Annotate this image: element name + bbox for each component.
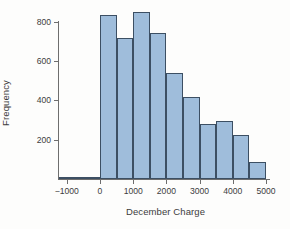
x-tick-mark [67, 180, 68, 184]
histogram-bar [133, 12, 150, 179]
histogram-bar [150, 33, 167, 179]
y-tick-mark [54, 100, 58, 101]
y-axis-line [58, 21, 59, 180]
y-tick-label: 600 [25, 56, 51, 66]
x-tick-mark [133, 180, 134, 184]
histogram-bar [183, 97, 200, 179]
histogram-bar [200, 124, 217, 179]
x-axis-line [58, 179, 270, 180]
y-tick-label: 800 [25, 17, 51, 27]
y-tick-mark [54, 22, 58, 23]
histogram-bar [100, 15, 117, 179]
histogram-bar [249, 162, 266, 179]
x-tick-mark [200, 180, 201, 184]
y-tick-mark [54, 140, 58, 141]
x-tick-mark [266, 180, 267, 184]
histogram-figure: Frequency 200400600800 −1000010002000300… [0, 0, 290, 229]
histogram-bar [233, 135, 250, 179]
histogram-bar [166, 73, 183, 179]
y-tick-label: 400 [25, 95, 51, 105]
x-tick-mark [100, 180, 101, 184]
x-tick-label: 5000 [244, 186, 288, 196]
x-axis-label: December Charge [58, 206, 273, 217]
histogram-bar [117, 38, 134, 179]
y-tick-mark [54, 61, 58, 62]
x-tick-mark [233, 180, 234, 184]
y-tick-label: 200 [25, 135, 51, 145]
x-tick-mark [166, 180, 167, 184]
histogram-bar [216, 121, 233, 179]
